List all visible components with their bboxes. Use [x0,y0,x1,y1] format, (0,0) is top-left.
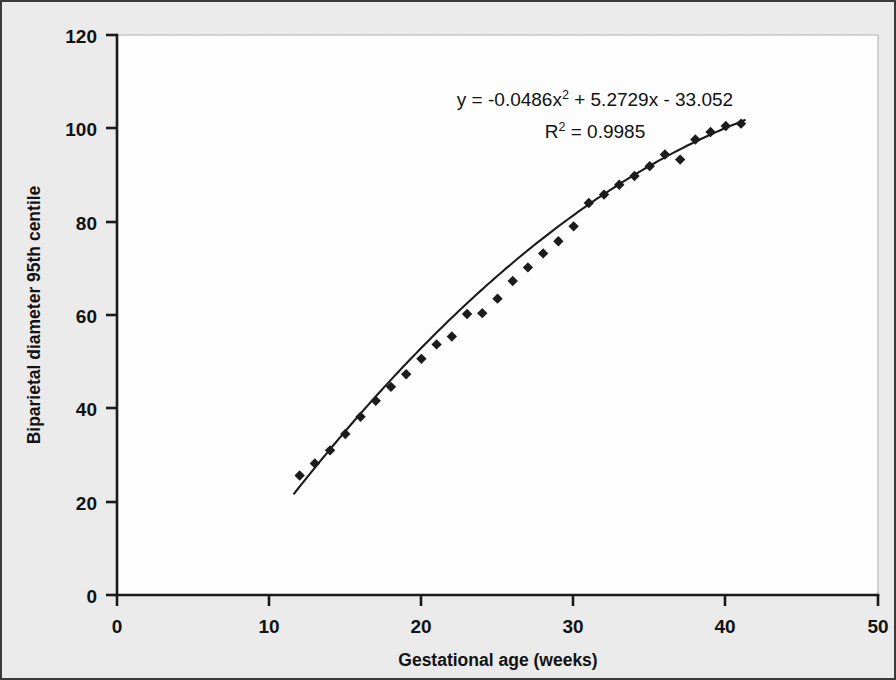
x-axis-ticks [117,595,878,606]
chart-svg: 120 100 80 60 40 20 0 0 10 20 30 40 50 G… [2,2,896,680]
r2-suffix: = 0.9985 [565,121,645,142]
r2-superscript: 2 [559,120,566,134]
x-tick-label: 50 [867,616,888,637]
x-tick-label: 30 [562,616,583,637]
figure-container: 120 100 80 60 40 20 0 0 10 20 30 40 50 G… [0,0,896,680]
y-tick-label: 120 [65,26,97,47]
x-tick-label: 0 [112,616,123,637]
x-axis-title: Gestational age (weeks) [398,650,597,670]
y-tick-label: 100 [65,119,97,140]
y-axis-ticks [106,35,117,595]
equation-prefix: y = -0.0486x [457,89,563,110]
x-tick-label: 10 [258,616,279,637]
y-tick-label: 60 [76,306,97,327]
x-tick-label: 20 [410,616,431,637]
equation-suffix: + 5.2729x - 33.052 [569,89,733,110]
y-tick-label: 40 [76,399,97,420]
y-tick-label: 20 [76,493,97,514]
y-tick-label: 0 [86,586,97,607]
equation-superscript: 2 [562,88,569,102]
y-axis-title: Biparietal diameter 95th centile [24,185,44,444]
plot-area-background [117,35,878,595]
x-tick-label: 40 [714,616,735,637]
x-axis-tick-labels: 0 10 20 30 40 50 [112,616,889,637]
y-axis-tick-labels: 120 100 80 60 40 20 0 [65,26,97,607]
y-tick-label: 80 [76,213,97,234]
r2-prefix: R [545,121,559,142]
fit-equation-annotation: y = -0.0486x2 + 5.2729x - 33.052 [457,88,733,110]
